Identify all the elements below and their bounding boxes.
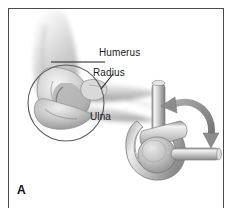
- label-humerus: Humerus: [99, 47, 140, 58]
- lever-arm: [171, 148, 221, 160]
- panel-letter: A: [17, 183, 26, 197]
- figure-panel: Humerus Radius Ulna A: [0, 0, 232, 208]
- label-ulna: Ulna: [90, 111, 111, 122]
- illustration-canvas: [9, 9, 223, 207]
- frame-border-right: [223, 8, 224, 208]
- label-radius: Radius: [93, 67, 125, 78]
